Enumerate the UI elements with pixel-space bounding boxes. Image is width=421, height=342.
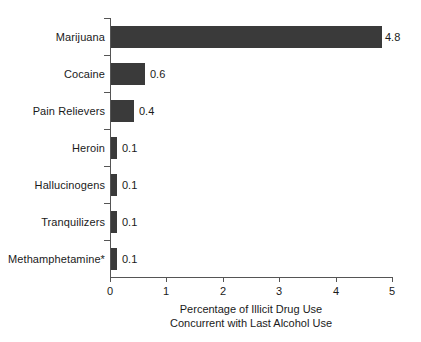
x-axis-tick: [392, 277, 393, 282]
bar-cocaine: [111, 63, 145, 85]
x-axis-tick-label: 0: [100, 285, 120, 298]
x-axis-tick: [336, 277, 337, 282]
x-axis-line: [110, 277, 392, 278]
bar-value-label: 0.1: [122, 248, 137, 270]
x-axis-tick: [279, 277, 280, 282]
x-axis-tick-label: 2: [213, 285, 233, 298]
x-axis-title: Percentage of Illicit Drug Use Concurren…: [110, 303, 392, 330]
chart-row: Methamphetamine* 0.1: [0, 240, 421, 277]
chart-row: Heroin 0.1: [0, 129, 421, 166]
x-axis-tick: [166, 277, 167, 282]
bar-value-label: 4.8: [385, 26, 400, 48]
x-axis-tick-label: 5: [382, 285, 402, 298]
x-axis-tick: [223, 277, 224, 282]
category-label: Tranquilizers: [0, 203, 105, 240]
x-axis-tick-label: 1: [156, 285, 176, 298]
bar-value-label: 0.1: [122, 211, 137, 233]
bar-tranquilizers: [111, 211, 117, 233]
chart-row: Hallucinogens 0.1: [0, 166, 421, 203]
bar-pain-relievers: [111, 100, 134, 122]
category-label: Heroin: [0, 129, 105, 166]
category-label: Cocaine: [0, 55, 105, 92]
x-axis-title-line2: Concurrent with Last Alcohol Use: [110, 317, 392, 331]
chart-row: Cocaine 0.6: [0, 55, 421, 92]
x-axis-tick: [110, 277, 111, 282]
x-axis-tick-label: 4: [326, 285, 346, 298]
bar-marijuana: [111, 26, 382, 48]
chart-row: Marijuana 4.8: [0, 18, 421, 55]
bar-hallucinogens: [111, 174, 117, 196]
chart-row: Pain Relievers 0.4: [0, 92, 421, 129]
category-label: Hallucinogens: [0, 166, 105, 203]
bar-heroin: [111, 137, 117, 159]
x-axis-title-line1: Percentage of Illicit Drug Use: [110, 303, 392, 317]
bar-methamphetamine: [111, 248, 117, 270]
bar-value-label: 0.6: [150, 63, 165, 85]
bar-value-label: 0.1: [122, 174, 137, 196]
x-axis-tick-label: 3: [269, 285, 289, 298]
bar-chart: Marijuana 4.8 Cocaine 0.6 Pain Relievers…: [0, 0, 421, 342]
category-label: Methamphetamine*: [0, 240, 105, 277]
chart-row: Tranquilizers 0.1: [0, 203, 421, 240]
bar-value-label: 0.4: [139, 100, 154, 122]
category-label: Pain Relievers: [0, 92, 105, 129]
category-label: Marijuana: [0, 18, 105, 55]
bar-value-label: 0.1: [122, 137, 137, 159]
